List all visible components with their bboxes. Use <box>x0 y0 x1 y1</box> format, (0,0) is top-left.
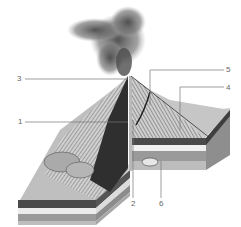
right-block-cutaway <box>129 76 230 171</box>
label-3: 3 <box>17 75 21 83</box>
label-5: 5 <box>226 66 230 74</box>
label-4: 4 <box>226 84 230 92</box>
ash-plume <box>67 6 146 76</box>
label-1: 1 <box>18 118 22 126</box>
label-6: 6 <box>159 200 163 208</box>
volcano-illustration <box>0 0 241 227</box>
label-2: 2 <box>131 200 135 208</box>
volcano-diagram: 3 1 5 4 2 6 <box>0 0 241 227</box>
